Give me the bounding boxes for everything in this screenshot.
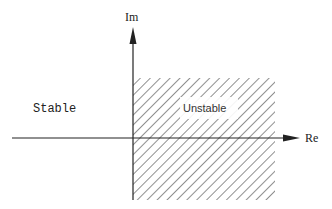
unstable-region: [133, 78, 275, 200]
real-axis-label: Re: [305, 131, 318, 145]
unstable-region-label: Unstable: [183, 102, 226, 114]
stable-region-label: Stable: [33, 102, 76, 116]
arrow-right-icon: [283, 135, 300, 142]
arrow-up-icon: [130, 27, 137, 44]
imaginary-axis-label: Im: [125, 10, 139, 24]
s-plane-diagram: Im Re Stable Unstable: [0, 0, 332, 209]
